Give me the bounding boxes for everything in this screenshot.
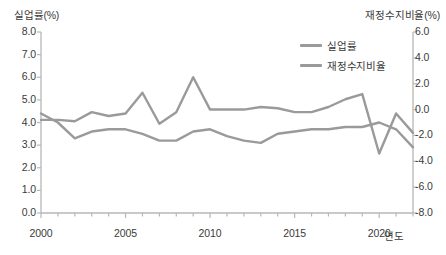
y-left-tick-label: 3.0 [10,138,36,150]
legend-item[interactable]: 재정수지비율 [300,58,386,73]
y-axis-right-labels: -8.0-6.0-4.0-2.00.02.04.06.0 [415,0,445,255]
y-right-tick-label: -2.0 [415,128,445,140]
x-tick-label: 2010 [188,227,232,239]
y-right-tick-label: -6.0 [415,180,445,192]
y-left-tick-label: 8.0 [10,25,36,37]
legend-line-icon [300,44,322,47]
y-right-tick-label: -8.0 [415,206,445,218]
legend-label: 실업률 [327,38,356,53]
y-left-tick-label: 6.0 [10,70,36,82]
y-left-tick-label: 4.0 [10,116,36,128]
y-left-tick-label: 1.0 [10,183,36,195]
y-left-tick-label: 2.0 [10,161,36,173]
x-axis-labels: 20002005201020152020 [0,225,446,245]
chart-legend: 실업률재정수지비율 [300,38,386,73]
line-chart: 실업률(%) 재정수지비율(%) 0.01.02.03.04.05.06.07.… [0,0,446,255]
y-axis-left-labels: 0.01.02.03.04.05.06.07.08.0 [10,0,36,255]
y-right-tick-label: -4.0 [415,154,445,166]
y-left-tick-label: 0.0 [10,206,36,218]
legend-line-icon [300,64,322,67]
y-left-tick-label: 5.0 [10,93,36,105]
y-right-tick-label: 0.0 [415,103,445,115]
y-right-tick-label: 6.0 [415,25,445,37]
legend-item[interactable]: 실업률 [300,38,386,53]
x-axis-title: 연도 [384,228,404,243]
y-right-tick-label: 2.0 [415,77,445,89]
y-left-tick-label: 7.0 [10,48,36,60]
data-series-group [41,77,413,153]
x-tick-label: 2005 [104,227,148,239]
y-right-tick-label: 4.0 [415,51,445,63]
x-tick-label: 2000 [19,227,63,239]
legend-label: 재정수지비율 [327,58,386,73]
x-tick-label: 2015 [273,227,317,239]
